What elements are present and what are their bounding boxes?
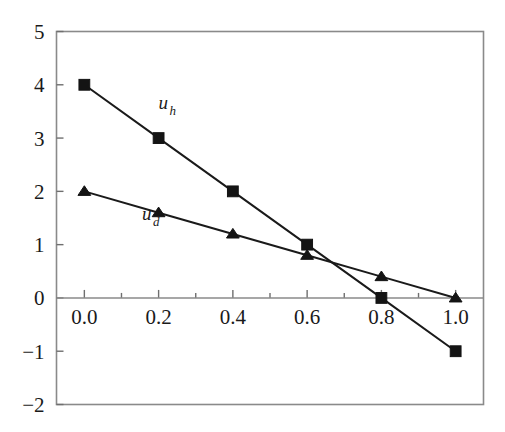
label-ud-subscript: d [153,214,160,229]
data-point-u_h [153,133,164,144]
x-tick-label: 0.8 [368,305,394,329]
y-tick-label: 0 [34,286,45,310]
x-tick-label: 0.6 [294,305,320,329]
data-point-u_h [79,79,90,90]
y-tick-label: −2 [22,393,44,417]
x-tick-label: 1.0 [443,305,469,329]
chart-background [0,0,505,432]
y-tick-label: 3 [34,127,45,151]
data-point-u_h [302,239,313,250]
x-tick-label: 0.4 [220,305,247,329]
chart-page: 543210−1−2 0.00.20.40.60.81.0 uhud [0,0,505,432]
label-uh-subscript: h [170,103,177,118]
label-uh-base: u [159,92,169,113]
line-chart-figure: 543210−1−2 0.00.20.40.60.81.0 uhud [0,0,505,432]
x-tick-label: 0.2 [145,305,171,329]
data-point-u_h [376,293,387,304]
label-ud-base: u [142,203,152,224]
chart-canvas: 543210−1−2 0.00.20.40.60.81.0 uhud [0,0,505,432]
data-point-u_h [227,186,238,197]
data-point-u_h [450,346,461,357]
x-tick-label: 0.0 [71,305,97,329]
y-tick-label: 4 [34,73,45,97]
y-tick-label: 1 [34,233,45,257]
y-tick-label: −1 [22,340,44,364]
y-tick-label: 2 [34,180,45,204]
y-tick-label: 5 [34,20,45,44]
